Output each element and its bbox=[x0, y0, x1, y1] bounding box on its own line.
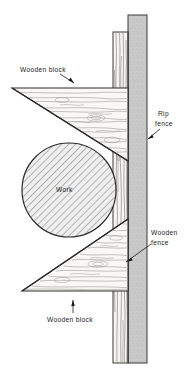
rip-fence-part bbox=[128, 15, 147, 363]
illustration-canvas: Wooden block Rip fence Work Wooden fence… bbox=[0, 0, 190, 377]
label-wooden-fence-line1: Wooden bbox=[151, 229, 178, 236]
rip-fence-body bbox=[128, 15, 147, 363]
label-work: Work bbox=[56, 186, 73, 193]
label-wooden-block-bottom: Wooden block bbox=[47, 316, 93, 323]
label-rip-fence-line1: Rip bbox=[158, 110, 169, 118]
label-rip-fence-line2: fence bbox=[155, 120, 173, 127]
label-wooden-fence-line2: fence bbox=[151, 239, 169, 246]
label-wooden-block-top: Wooden block bbox=[20, 66, 66, 73]
technical-illustration: Wooden block Rip fence Work Wooden fence… bbox=[0, 0, 190, 377]
